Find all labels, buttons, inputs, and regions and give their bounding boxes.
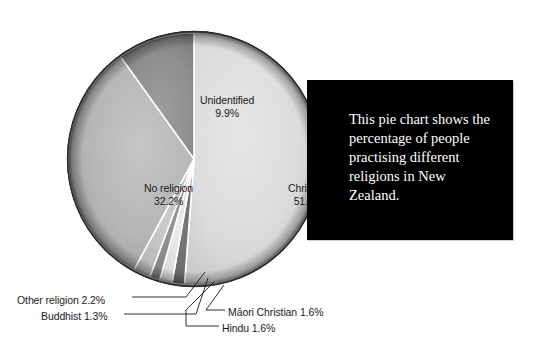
slice-label-no-religion-percent: 32.2% [144,195,193,208]
slice-label-unidentified-percent: 9.9% [200,107,254,120]
caption-text: This pie chart shows the percentage of p… [349,110,499,205]
leader-line-hindu [186,282,219,326]
pie-chart-svg [66,30,322,288]
callout-hindu: Hindu 1.6% [222,322,275,334]
callout-other-religion: Other religion 2.2% [17,294,105,306]
slice-label-no-religion: No religion 32.2% [144,182,193,207]
pie-rim-shading [67,31,321,287]
pie-chart: Christian 51.2% No religion 32.2% Uniden… [66,30,322,288]
callout-maori-christian: Māori Christian 1.6% [228,306,323,318]
caption-box: This pie chart shows the percentage of p… [307,80,513,240]
slice-label-unidentified-name: Unidentified [200,94,254,106]
slice-label-no-religion-name: No religion [144,182,193,194]
leader-line-maori-christian [206,285,225,310]
callout-buddhist: Buddhist 1.3% [41,310,107,322]
chart-canvas: Christian 51.2% No religion 32.2% Uniden… [0,0,538,363]
slice-label-unidentified: Unidentified 9.9% [200,94,254,119]
